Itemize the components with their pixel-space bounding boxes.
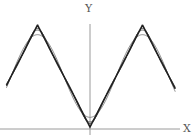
x-axis-label: X	[183, 123, 191, 134]
fourier-2-terms-curve	[6, 30, 175, 122]
triangle-wave-curve	[6, 25, 175, 127]
series-group	[6, 25, 175, 127]
plot-canvas	[0, 0, 196, 135]
fourier-3-terms-curve	[6, 28, 175, 123]
y-axis-label: Y	[85, 3, 92, 14]
fourier-1-term-curve	[6, 35, 175, 118]
